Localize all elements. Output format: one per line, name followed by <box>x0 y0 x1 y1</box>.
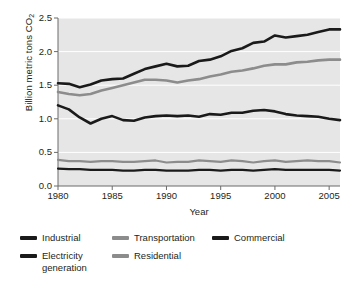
legend-item[interactable]: Commercial <box>212 232 285 244</box>
legend-label: Transportation <box>134 232 195 244</box>
x-tick-label: 1990 <box>146 190 186 201</box>
chart-plot-region: Billion metric tons CO2 0.00.51.01.52.02… <box>0 0 348 215</box>
legend-label: Electricity generation <box>42 250 87 273</box>
legend-item[interactable]: Residential <box>112 250 181 262</box>
legend-swatch-icon <box>212 236 229 240</box>
legend-label: Industrial <box>42 232 81 244</box>
legend-swatch-icon <box>112 254 129 258</box>
series-line-commercial <box>58 169 340 171</box>
legend-item[interactable]: Transportation <box>112 232 195 244</box>
legend-label: Residential <box>134 250 181 262</box>
legend-label: Commercial <box>234 232 285 244</box>
chart-legend: IndustrialTransportationCommercialElectr… <box>0 232 348 288</box>
line-chart-svg <box>0 0 348 215</box>
x-tick-label: 1980 <box>38 190 78 201</box>
x-axis-title: Year <box>58 206 340 217</box>
x-tick-label: 1995 <box>201 190 241 201</box>
x-tick-label: 1985 <box>92 190 132 201</box>
legend-swatch-icon <box>112 236 129 240</box>
x-tick-label: 2005 <box>309 190 348 201</box>
figure: Billion metric tons CO2 0.00.51.01.52.02… <box>0 0 348 288</box>
x-tick-label: 2000 <box>255 190 295 201</box>
legend-item[interactable]: Electricity generation <box>20 250 87 273</box>
legend-swatch-icon <box>20 236 37 240</box>
legend-swatch-icon <box>20 254 37 258</box>
legend-item[interactable]: Industrial <box>20 232 81 244</box>
